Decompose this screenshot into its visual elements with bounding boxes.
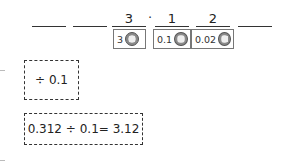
place-slot-hundredths: 2 <box>196 11 230 27</box>
margin-tick <box>0 70 5 71</box>
coin-icon <box>218 32 231 46</box>
token-ones[interactable]: 3 <box>113 29 146 49</box>
token-label: 0.1 <box>157 34 172 45</box>
token-tenths[interactable]: 0.1 <box>153 29 191 49</box>
coin-icon <box>174 32 188 46</box>
token-label: 0.02 <box>195 34 216 45</box>
place-slot-1 <box>32 11 66 27</box>
token-hundredths[interactable]: 0.02 <box>191 29 234 49</box>
token-label: 3 <box>117 34 123 45</box>
coin-icon <box>125 32 139 46</box>
place-slot-tenths: 1 <box>155 11 189 27</box>
equation-box: 0.312 ÷ 0.1= 3.12 <box>24 113 143 145</box>
equation-text: 0.312 ÷ 0.1= 3.12 <box>28 122 140 136</box>
decimal-point: · <box>148 10 152 25</box>
margin-tick <box>0 160 5 161</box>
place-slot-thousandths <box>238 11 272 27</box>
place-slot-ones: 3 <box>112 11 146 27</box>
operation-text: ÷ 0.1 <box>35 73 68 87</box>
place-slot-2 <box>73 11 107 27</box>
operation-box: ÷ 0.1 <box>24 60 79 100</box>
